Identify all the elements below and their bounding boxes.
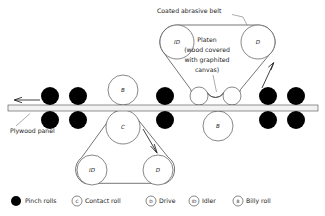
- legend-code-4: B: [236, 199, 239, 204]
- pinch-roll: [287, 111, 305, 129]
- diagram-canvas: ID D C ID D B B: [0, 0, 325, 216]
- upper-idler-label: ID: [174, 39, 181, 45]
- panel-label-leader: [16, 114, 30, 127]
- platen-label-line-1: (wood covered: [184, 46, 230, 53]
- pinch-roll: [69, 111, 87, 129]
- legend-label-4: Billy roll: [246, 197, 271, 205]
- pinch-roll: [259, 87, 277, 105]
- pinch-roll: [287, 87, 305, 105]
- legend-label-0: Pinch rolls: [25, 197, 56, 204]
- platen-label-line-2: with graphited: [184, 56, 229, 64]
- platen-roller-left: [190, 87, 208, 105]
- pinch-roll: [41, 87, 59, 105]
- belt-label: Coated abrasive belt: [157, 7, 222, 14]
- pinch-roll: [156, 87, 174, 105]
- upper-belt-direction-arrow: [262, 63, 274, 89]
- legend-label-3: Idler: [202, 197, 216, 204]
- contact-roll-label: C: [121, 124, 125, 130]
- legend-pinch-icon: [11, 196, 21, 206]
- belt-label-leader: [232, 15, 247, 26]
- legend-label-2: Drive: [159, 197, 176, 204]
- feed-direction-arrow: [14, 97, 40, 102]
- upper-belt-assembly: ID D: [160, 25, 275, 105]
- upper-drive-label: D: [256, 39, 261, 45]
- legend: Pinch rolls C Contact roll D Drive ID Id…: [11, 196, 271, 206]
- pinch-roll: [156, 111, 174, 129]
- plywood-panel: [8, 105, 318, 111]
- platen-label-leader: [213, 75, 217, 92]
- sander-diagram: ID D C ID D B B: [0, 0, 325, 216]
- platen-label-line-3: canvas): [195, 66, 219, 73]
- legend-code-3: ID: [192, 199, 197, 204]
- platen-shoe: [208, 94, 224, 98]
- legend-code-1: C: [75, 199, 78, 204]
- lower-idler-label: ID: [89, 167, 96, 173]
- billy-roll-lower-label: B: [216, 123, 220, 129]
- platen-label-line-0: Platen: [197, 36, 216, 43]
- pinch-roll: [69, 87, 87, 105]
- panel-label: Plywood panel: [10, 127, 55, 135]
- legend-label-1: Contact roll: [85, 197, 121, 204]
- platen-roller-right: [223, 87, 241, 105]
- pinch-roll: [259, 111, 277, 129]
- lower-drive-label: D: [156, 167, 161, 173]
- billy-roll-upper-label: B: [121, 87, 125, 93]
